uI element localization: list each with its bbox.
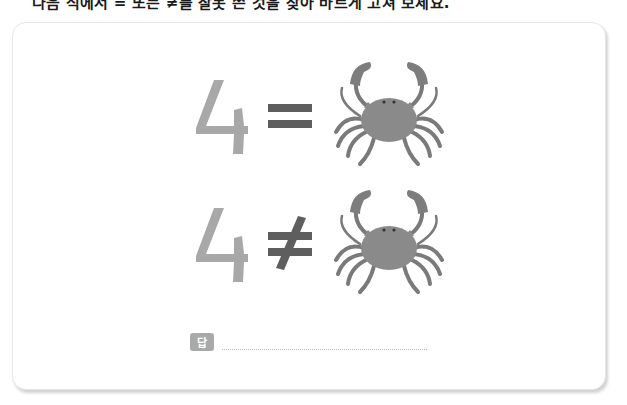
crab-icon [330,58,448,170]
equation-row-not-equals [190,186,448,298]
answer-label: 답 [190,333,214,351]
crab-icon [330,186,448,298]
answer-input-line[interactable] [222,349,427,350]
answer-area: 답 [190,333,427,351]
equals-sign [264,84,316,144]
instruction-text: 다음 식에서 = 또는 ≠를 잘못 쓴 것을 찾아 바르게 고쳐 보세요. [32,0,450,12]
not-equals-sign [264,212,316,272]
digit-four [190,74,250,154]
equation-row-equals [190,58,448,170]
worksheet-page: 다음 식에서 = 또는 ≠를 잘못 쓴 것을 찾아 바르게 고쳐 보세요. [0,0,627,405]
digit-four [190,202,250,282]
